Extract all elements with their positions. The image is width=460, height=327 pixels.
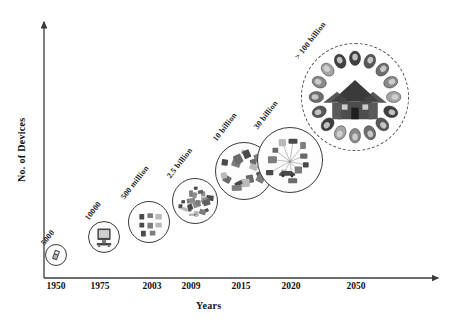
x-axis-tick-2003: 2003 bbox=[143, 281, 162, 291]
desktop-computer-icon bbox=[89, 222, 119, 252]
data-point-2003 bbox=[128, 201, 170, 243]
electronics-cluster-icon bbox=[173, 179, 217, 223]
data-point-2050 bbox=[301, 43, 409, 151]
x-axis-tick-1975: 1975 bbox=[91, 281, 110, 291]
x-axis-title: Years bbox=[196, 300, 221, 311]
x-axis-tick-2050: 2050 bbox=[347, 281, 366, 291]
x-axis-tick-2020: 2020 bbox=[282, 281, 301, 291]
smart-home-ecosystem-icon bbox=[302, 44, 408, 150]
x-axis-tick-2015: 2015 bbox=[232, 281, 251, 291]
x-axis-tick-1950: 1950 bbox=[47, 281, 66, 291]
data-point-1950 bbox=[45, 244, 67, 266]
x-axis-tick-2009: 2009 bbox=[182, 281, 201, 291]
data-point-1975 bbox=[88, 221, 120, 253]
device-grid-icon bbox=[129, 202, 169, 242]
data-point-2009 bbox=[172, 178, 218, 224]
iot-growth-chart: No. of Devices Years 1950197520032009201… bbox=[0, 0, 460, 327]
old-mobile-phone-icon bbox=[46, 245, 66, 265]
y-axis-title: No. of Devices bbox=[16, 118, 27, 182]
